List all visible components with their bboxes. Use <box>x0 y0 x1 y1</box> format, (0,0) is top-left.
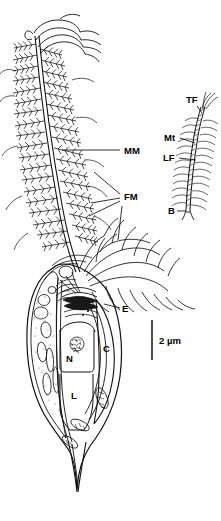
label-b: B <box>168 205 175 216</box>
scale-bar-label: 2 µm <box>159 335 181 346</box>
label-mt: Mt <box>164 132 176 143</box>
label-l: L <box>71 390 77 401</box>
label-e: E <box>122 303 128 314</box>
figure-canvas: MM FM E N C L <box>0 0 221 521</box>
label-c: C <box>103 343 110 354</box>
label-lf: LF <box>163 152 175 163</box>
cell-diagram-svg: MM FM E N C L <box>0 0 221 521</box>
label-tf: TF <box>186 94 198 105</box>
label-mm: MM <box>124 145 140 156</box>
label-n: N <box>66 353 73 364</box>
label-fm: FM <box>124 191 138 202</box>
